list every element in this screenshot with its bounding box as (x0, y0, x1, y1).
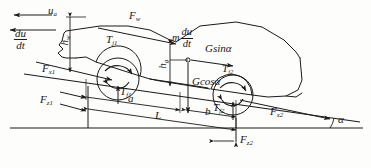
dimension-L-label: L (155, 110, 161, 121)
front-wheel (96, 46, 141, 100)
front-wheel-torque-arc (105, 66, 132, 74)
inertia-force-label: m du dt (172, 27, 193, 49)
slope-angle-arc (330, 118, 334, 128)
front-normal-force-label: Fz1 (40, 94, 53, 107)
drag-height-label: hw (59, 35, 72, 45)
rear-rolling-torque-label: Tf2 (213, 102, 224, 115)
rear-wheel-torque-arc (220, 83, 246, 91)
front-normal-force-arrow (60, 86, 88, 128)
acceleration-label: du dt (14, 28, 27, 51)
rear-normal-force-label: Fz2 (240, 134, 253, 147)
front-inertia-torque-label: Tj1 (106, 34, 117, 47)
rear-inertia-torque-label: Tj2 (222, 63, 233, 76)
velocity-label: ua (48, 5, 57, 18)
dimension-b-label: b (205, 106, 211, 117)
normal-weight-label: Gcosα (192, 76, 220, 87)
dimension-a-label: a (128, 93, 134, 104)
rear-longitudinal-force-label: Fx2 (270, 106, 283, 119)
grade-force-label: Gsinα (205, 43, 232, 54)
rear-longitudinal-force-arrow (240, 100, 330, 119)
slope-angle-label: α (338, 114, 344, 125)
cg-height-label: hg (157, 60, 170, 69)
figure-canvas: ua du dt hw Fw m du dt Gsinα Gcosα hg Tj… (0, 0, 371, 168)
aero-drag-label: Fw (129, 10, 140, 23)
front-longitudinal-force-label: Fx1 (42, 63, 55, 76)
